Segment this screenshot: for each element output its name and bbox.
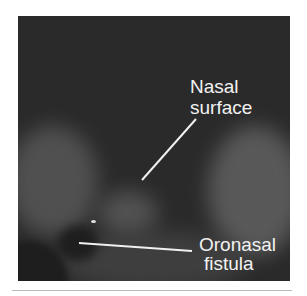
oronasal-fistula-label: Oronasal fistula xyxy=(199,235,276,273)
label-line: Oronasal xyxy=(199,235,276,254)
nasal-surface-pointer-line xyxy=(142,119,196,180)
label-line: fistula xyxy=(204,254,276,273)
oronasal-fistula-pointer-line xyxy=(79,243,192,251)
label-line: Nasal xyxy=(190,77,252,96)
caption-divider xyxy=(12,290,292,291)
nasal-surface-label: Nasal surface xyxy=(190,77,252,117)
label-line: surface xyxy=(190,98,252,117)
